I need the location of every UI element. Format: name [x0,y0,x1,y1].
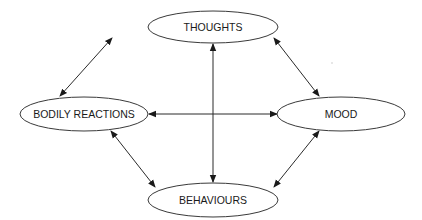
node-behaviours-label: BEHAVIOURS [179,194,247,206]
node-bodily-reactions-label: BODILY REACTIONS [33,108,135,120]
stray-dot [331,62,333,64]
edge-thoughts-mood [274,38,319,96]
node-thoughts: THOUGHTS [148,11,278,43]
edge-mood-behaviours [274,131,319,187]
node-behaviours: BEHAVIOURS [148,183,278,217]
node-mood: MOOD [277,97,405,131]
edge-thoughts-bodily-reactions [60,38,112,96]
node-mood-label: MOOD [325,108,358,120]
edge-bodily-reactions-behaviours [111,131,155,187]
node-thoughts-label: THOUGHTS [184,21,243,33]
node-bodily-reactions: BODILY REACTIONS [20,97,148,131]
cbt-cycle-diagram: THOUGHTS BODILY REACTIONS MOOD BEHAVIOUR… [0,0,422,220]
